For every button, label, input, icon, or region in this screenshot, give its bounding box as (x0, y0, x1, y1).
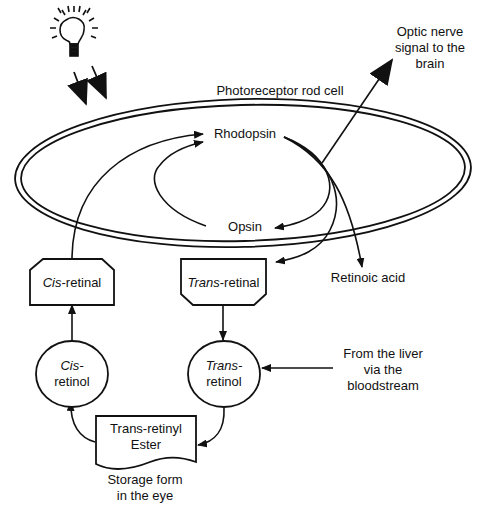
trans-retinol-label: Trans- retinol (188, 358, 260, 390)
arrow-opsin-to-rhodopsin (154, 142, 206, 226)
arrow-transretinol-to-ester (198, 408, 224, 445)
retinoic-acid-label: Retinoic acid (318, 270, 418, 286)
storage-label: Storage form in the eye (90, 472, 200, 504)
light-ray-arrow-icon (74, 66, 106, 104)
optic-nerve-label: Optic nerve signal to the brain (378, 24, 482, 72)
ester-label: Trans-retinyl Ester (96, 421, 196, 453)
arrow-rhodopsin-to-retinoic (284, 137, 362, 267)
opsin-label: Opsin (220, 219, 270, 235)
pathway-diagram (0, 0, 485, 516)
cell-title: Photoreceptor rod cell (180, 83, 380, 99)
arrow-rhodopsin-to-opsin (275, 137, 330, 228)
arrow-ester-to-cisretinol (71, 402, 95, 442)
liver-label: From the liver via the bloodstream (330, 346, 436, 394)
light-bulb-icon (50, 6, 98, 56)
cis-retinol-label: Cis- retinol (36, 358, 108, 390)
rhodopsin-label: Rhodopsin (208, 126, 282, 142)
trans-retinal-label: Trans-retinal (181, 275, 266, 291)
cis-retinal-label: Cis-retinal (30, 275, 114, 291)
